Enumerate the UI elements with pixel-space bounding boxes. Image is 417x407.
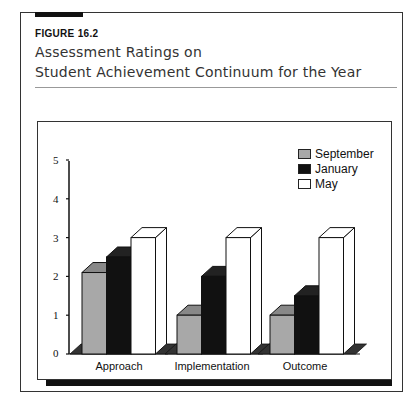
y-tick-2: 2	[53, 270, 59, 282]
bar-may-outcome	[319, 238, 344, 354]
bar-plot	[0, 0, 417, 407]
legend-swatch-september	[298, 149, 311, 159]
bar-september-outcome	[270, 315, 295, 354]
legend-swatch-january	[298, 164, 311, 174]
legend-item-january: January	[298, 161, 374, 176]
bar-january-outcome	[295, 296, 320, 354]
bar-side-may	[251, 228, 262, 354]
bar-january-implementation	[202, 276, 227, 354]
bar-january-approach	[107, 257, 132, 354]
legend-label: January	[315, 162, 358, 176]
legend-item-may: May	[298, 176, 374, 191]
bar-side-may	[156, 228, 167, 354]
bar-may-implementation	[226, 238, 251, 354]
y-tick-4: 4	[53, 193, 59, 205]
y-tick-0: 0	[53, 347, 59, 359]
legend-label: May	[315, 177, 338, 191]
legend: September January May	[298, 146, 374, 191]
y-tick-3: 3	[53, 232, 59, 244]
legend-swatch-may	[298, 179, 311, 189]
bar-september-implementation	[177, 315, 202, 354]
x-label-approach: Approach	[74, 360, 164, 372]
legend-label: September	[315, 147, 374, 161]
y-tick-5: 5	[53, 154, 59, 166]
bar-may-approach	[131, 238, 156, 354]
x-label-outcome: Outcome	[260, 360, 350, 372]
x-label-implementation: Implementation	[167, 360, 257, 372]
y-tick-1: 1	[53, 309, 59, 321]
legend-item-september: September	[298, 146, 374, 161]
bar-side-may	[344, 228, 355, 354]
bar-september-approach	[82, 273, 107, 354]
